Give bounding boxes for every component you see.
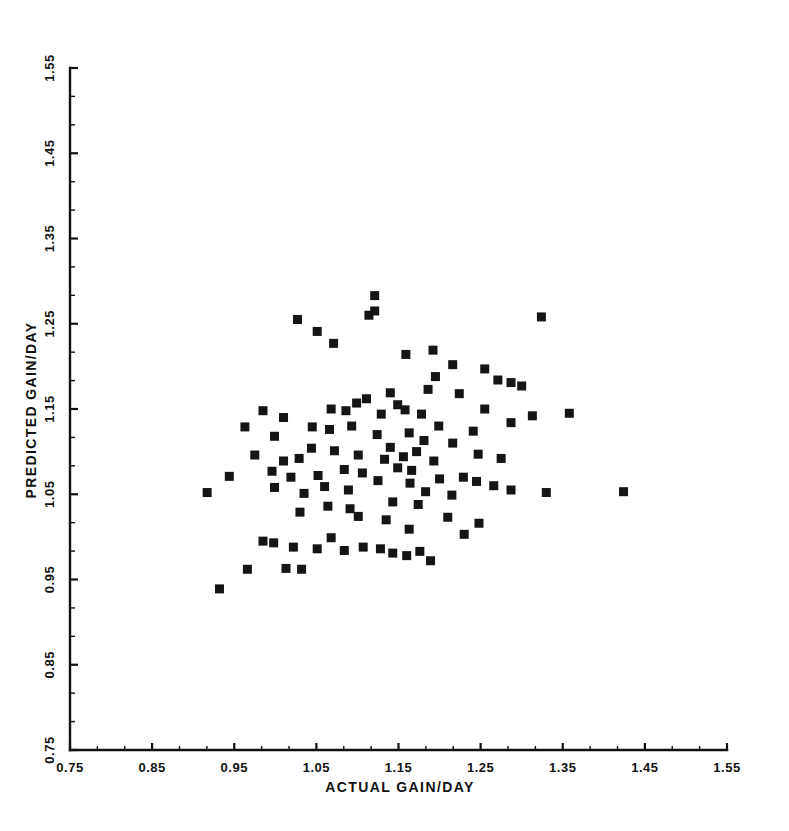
data-point bbox=[537, 312, 546, 321]
data-point bbox=[528, 411, 537, 420]
data-point bbox=[297, 565, 306, 574]
data-point bbox=[399, 452, 408, 461]
data-point bbox=[447, 491, 456, 500]
data-point bbox=[325, 425, 334, 434]
x-axis-title: ACTUAL GAIN/DAY bbox=[325, 779, 474, 795]
data-point bbox=[448, 360, 457, 369]
data-point bbox=[429, 457, 438, 466]
data-point bbox=[619, 487, 628, 496]
x-tick-label: 0.95 bbox=[221, 760, 248, 775]
data-point bbox=[313, 544, 322, 553]
data-point bbox=[354, 512, 363, 521]
data-point bbox=[314, 471, 323, 480]
data-point bbox=[435, 474, 444, 483]
ticks-group bbox=[69, 68, 727, 751]
data-point bbox=[401, 405, 410, 414]
data-point bbox=[405, 479, 414, 488]
data-point bbox=[517, 381, 526, 390]
data-point bbox=[295, 508, 304, 517]
data-point bbox=[507, 485, 516, 494]
data-point bbox=[424, 385, 433, 394]
data-point bbox=[386, 388, 395, 397]
data-point bbox=[281, 564, 290, 573]
x-tick-label: 1.25 bbox=[467, 760, 494, 775]
x-tick-label: 1.05 bbox=[303, 760, 330, 775]
data-point bbox=[443, 513, 452, 522]
y-tick-label: 1.25 bbox=[42, 310, 57, 337]
data-point bbox=[493, 376, 502, 385]
data-points-group bbox=[203, 291, 628, 593]
y-tick-label: 0.75 bbox=[42, 736, 57, 763]
data-point bbox=[388, 497, 397, 506]
data-point bbox=[428, 346, 437, 355]
data-point bbox=[341, 406, 350, 415]
data-point bbox=[243, 565, 252, 574]
data-point bbox=[405, 525, 414, 534]
data-point bbox=[329, 339, 338, 348]
data-point bbox=[382, 515, 391, 524]
data-point bbox=[373, 430, 382, 439]
data-point bbox=[279, 457, 288, 466]
data-point bbox=[459, 473, 468, 482]
data-point bbox=[313, 327, 322, 336]
data-point bbox=[250, 451, 259, 460]
data-point bbox=[352, 399, 361, 408]
data-point bbox=[472, 477, 481, 486]
data-point bbox=[240, 422, 249, 431]
data-point bbox=[414, 500, 423, 509]
data-point bbox=[258, 406, 267, 415]
data-point bbox=[270, 432, 279, 441]
data-point bbox=[300, 489, 309, 498]
data-point bbox=[460, 530, 469, 539]
data-point bbox=[370, 306, 379, 315]
data-point bbox=[480, 405, 489, 414]
data-point bbox=[376, 544, 385, 553]
data-point bbox=[388, 549, 397, 558]
data-point bbox=[358, 468, 367, 477]
data-point bbox=[323, 502, 332, 511]
data-point bbox=[340, 546, 349, 555]
data-point bbox=[377, 410, 386, 419]
data-point bbox=[373, 476, 382, 485]
scatter-plot-figure: 0.750.850.951.051.151.251.351.451.55 0.7… bbox=[0, 0, 789, 831]
data-point bbox=[327, 533, 336, 542]
data-point bbox=[268, 467, 277, 476]
data-point bbox=[354, 451, 363, 460]
data-point bbox=[412, 447, 421, 456]
data-point bbox=[359, 543, 368, 552]
y-tick-label: 0.95 bbox=[42, 566, 57, 593]
data-point bbox=[269, 538, 278, 547]
data-point bbox=[405, 428, 414, 437]
y-tick-label: 1.55 bbox=[42, 54, 57, 81]
data-point bbox=[380, 455, 389, 464]
data-point bbox=[469, 427, 478, 436]
x-tick-label: 1.55 bbox=[713, 760, 740, 775]
data-point bbox=[474, 450, 483, 459]
data-point bbox=[203, 488, 212, 497]
data-point bbox=[386, 443, 395, 452]
data-point bbox=[347, 422, 356, 431]
data-point bbox=[308, 422, 317, 431]
data-point bbox=[289, 543, 298, 552]
data-point bbox=[421, 487, 430, 496]
x-tick-label: 1.15 bbox=[385, 760, 412, 775]
data-point bbox=[565, 409, 574, 418]
data-point bbox=[340, 465, 349, 474]
data-point bbox=[370, 291, 379, 300]
data-point bbox=[497, 454, 506, 463]
data-point bbox=[507, 418, 516, 427]
x-tick-label: 1.45 bbox=[631, 760, 658, 775]
y-axis-tick-labels: 0.750.850.951.051.151.251.351.451.55 bbox=[42, 54, 57, 763]
data-point bbox=[415, 547, 424, 556]
y-tick-label: 1.35 bbox=[42, 225, 57, 252]
data-point bbox=[258, 537, 267, 546]
data-point bbox=[407, 466, 416, 475]
data-point bbox=[279, 413, 288, 422]
scatter-plot-canvas: 0.750.850.951.051.151.251.351.451.55 0.7… bbox=[0, 0, 789, 831]
data-point bbox=[320, 482, 329, 491]
data-point bbox=[307, 444, 316, 453]
data-point bbox=[346, 504, 355, 513]
x-axis-tick-labels: 0.750.850.951.051.151.251.351.451.55 bbox=[56, 760, 740, 775]
data-point bbox=[542, 488, 551, 497]
y-tick-label: 1.45 bbox=[42, 140, 57, 167]
